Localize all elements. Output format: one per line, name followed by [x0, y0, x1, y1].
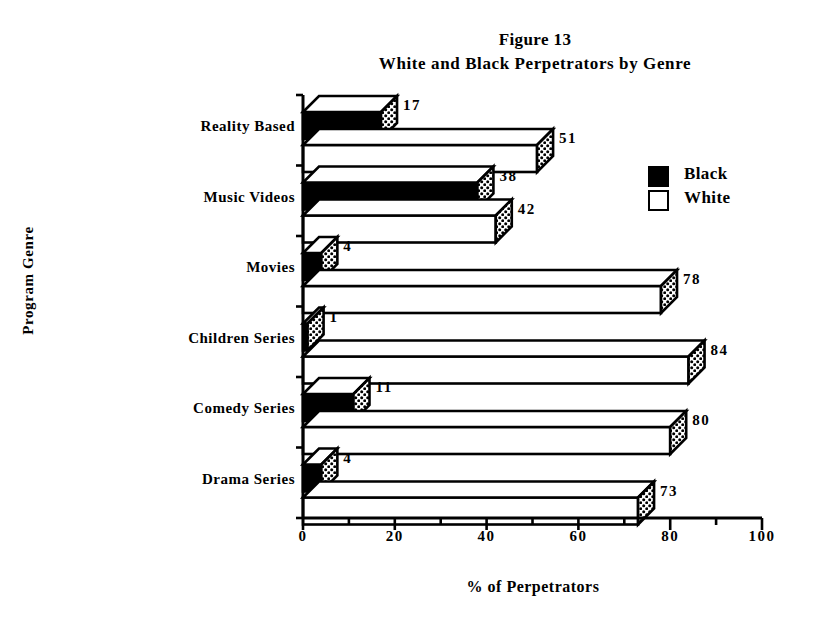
- x-tick-label-0: 0: [273, 528, 333, 545]
- y-axis-label-1: Music Videos: [55, 189, 295, 206]
- value-label-white-2: 78: [683, 271, 701, 288]
- x-tick-label-100: 100: [732, 528, 792, 545]
- value-label-white-3: 84: [711, 342, 729, 359]
- y-axis-label-0: Reality Based: [55, 118, 295, 135]
- x-tick-label-40: 40: [457, 528, 517, 545]
- legend-swatch-black: [648, 166, 669, 187]
- bar-white-4: [303, 411, 686, 454]
- value-label-black-0: 17: [403, 97, 421, 114]
- value-label-black-3: 1: [330, 309, 339, 326]
- value-label-black-4: 11: [375, 379, 392, 396]
- bar-white-2: [303, 270, 677, 313]
- y-axis-label-3: Children Series: [55, 330, 295, 347]
- x-tick-label-60: 60: [548, 528, 608, 545]
- legend-label-black: Black: [684, 164, 728, 184]
- value-label-black-2: 4: [343, 238, 352, 255]
- chart-figure: Figure 13 White and Black Perpetrators b…: [0, 0, 815, 625]
- y-axis-label-4: Comedy Series: [55, 400, 295, 417]
- x-tick-label-20: 20: [365, 528, 425, 545]
- y-axis-label-5: Drama Series: [55, 471, 295, 488]
- value-label-white-1: 42: [518, 201, 536, 218]
- y-axis-label-2: Movies: [55, 259, 295, 276]
- legend-swatch-white: [648, 190, 669, 211]
- x-tick-label-80: 80: [640, 528, 700, 545]
- value-label-white-5: 73: [660, 483, 678, 500]
- value-label-white-4: 80: [692, 412, 710, 429]
- value-label-white-0: 51: [559, 130, 577, 147]
- legend-label-white: White: [684, 188, 730, 208]
- value-label-black-1: 38: [499, 168, 517, 185]
- value-label-black-5: 4: [343, 450, 352, 467]
